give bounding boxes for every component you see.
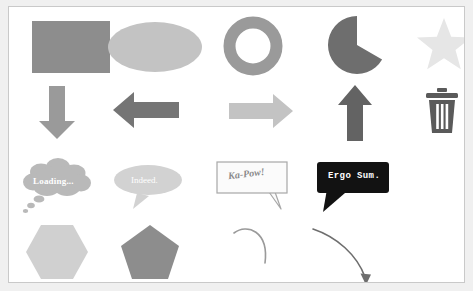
icon-trash-can[interactable] <box>422 85 462 137</box>
callout-speech-rect[interactable]: Ka-Pow! <box>215 159 293 215</box>
shape-canvas: Loading... Indeed. Ka-Pow! Ergo Sum. <box>8 6 465 283</box>
shape-curved-arrow[interactable] <box>309 221 379 283</box>
icon-arrow-up[interactable] <box>331 83 379 143</box>
screenshot-stage: Loading... Indeed. Ka-Pow! Ergo Sum. <box>0 0 473 291</box>
icon-arrow-right[interactable] <box>227 92 295 130</box>
callout-thought-bubble[interactable]: Loading... <box>17 155 97 217</box>
shape-pentagon[interactable] <box>119 223 181 281</box>
shape-arc-curve[interactable] <box>227 223 279 275</box>
icon-arrow-left[interactable] <box>111 89 181 131</box>
shape-hexagon[interactable] <box>24 223 90 283</box>
shape-ellipse[interactable] <box>106 17 204 77</box>
callout-speech-oval[interactable]: Indeed. <box>109 159 187 213</box>
callout-speech-rect-dark[interactable]: Ergo Sum. <box>315 159 393 217</box>
icon-arrow-down[interactable] <box>31 83 83 141</box>
shape-star[interactable] <box>415 15 465 73</box>
shape-rectangle[interactable] <box>31 19 111 75</box>
shape-donut[interactable] <box>222 15 284 77</box>
shape-pie[interactable] <box>325 13 389 77</box>
